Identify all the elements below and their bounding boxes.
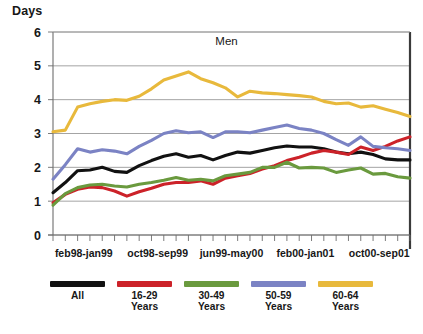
x-tick-label-1: oct98-sep99	[127, 247, 188, 259]
y-tick-label-2: 2	[34, 161, 41, 175]
chart-container: Days 0123456feb98-jan99oct98-sep99jun99-…	[0, 0, 423, 334]
y-tick-label-5: 5	[34, 59, 41, 73]
legend-label: 16-29 Years	[131, 290, 158, 312]
line-chart-plot: 0123456feb98-jan99oct98-sep99jun99-may00…	[0, 0, 423, 281]
chart-legend: All16-29 Years30-49 Years50-59 Years60-6…	[0, 281, 423, 312]
legend-item-16-29-years[interactable]: 16-29 Years	[116, 281, 173, 312]
legend-item-30-49-years[interactable]: 30-49 Years	[183, 281, 240, 312]
legend-item-all[interactable]: All	[49, 281, 106, 301]
y-tick-label-3: 3	[34, 127, 41, 141]
x-tick-label-4: oct00-sep01	[349, 247, 410, 259]
plot-title: Men	[215, 35, 237, 47]
y-tick-label-6: 6	[34, 26, 41, 40]
y-tick-label-0: 0	[34, 229, 41, 243]
y-tick-label-1: 1	[34, 195, 41, 209]
legend-swatch-icon	[318, 281, 373, 287]
legend-label: 60-64 Years	[332, 290, 359, 312]
series-line-60-64-years	[53, 72, 410, 132]
legend-swatch-icon	[117, 281, 172, 287]
y-tick-label-4: 4	[34, 93, 41, 107]
legend-label: 50-59 Years	[265, 290, 292, 312]
x-tick-label-3: feb00-jan01	[276, 247, 334, 259]
x-tick-label-2: jun99-may00	[199, 247, 264, 259]
legend-label: All	[71, 290, 84, 301]
legend-swatch-icon	[184, 281, 239, 287]
legend-item-50-59-years[interactable]: 50-59 Years	[250, 281, 307, 312]
legend-swatch-icon	[251, 281, 306, 287]
legend-item-60-64-years[interactable]: 60-64 Years	[317, 281, 374, 312]
legend-swatch-icon	[50, 281, 105, 287]
legend-label: 30-49 Years	[198, 290, 225, 312]
x-tick-label-0: feb98-jan99	[55, 247, 113, 259]
